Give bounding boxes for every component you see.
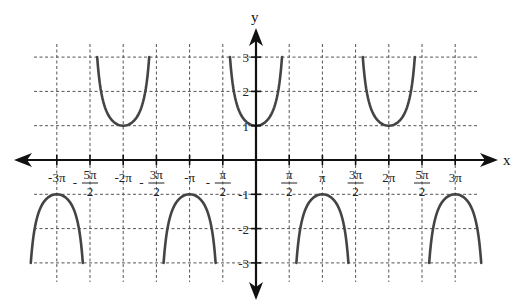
svg-text:2: 2 — [153, 184, 160, 199]
svg-text:-: - — [73, 175, 77, 190]
axes: x y — [14, 9, 511, 300]
y-tick-label: -3 — [238, 256, 249, 271]
svg-text:π: π — [220, 167, 227, 182]
svg-text:2: 2 — [87, 184, 94, 199]
y-tick-label: 2 — [243, 84, 250, 99]
secant-graph: x y -3π5π2--2π3π2--ππ2-π2π3π22π5π23π321-… — [0, 0, 521, 308]
y-tick-label: -2 — [238, 222, 249, 237]
svg-text:3π: 3π — [150, 167, 164, 182]
x-tick-label: 2π — [382, 170, 396, 185]
x-axis-label: x — [503, 152, 511, 168]
y-tick-label: 3 — [243, 50, 250, 65]
x-tick-label: π — [319, 170, 326, 185]
y-tick-label: -1 — [238, 187, 249, 202]
y-tick-label: 1 — [243, 119, 250, 134]
svg-text:3π: 3π — [349, 167, 363, 182]
svg-text:π: π — [286, 167, 293, 182]
x-tick-label: -π — [184, 170, 195, 185]
svg-text:-: - — [139, 175, 143, 190]
x-tick-label: 3π — [449, 170, 463, 185]
x-tick-label: -3π — [48, 170, 66, 185]
svg-text:2: 2 — [352, 184, 359, 199]
x-tick-label: -2π — [114, 170, 132, 185]
svg-text:2: 2 — [419, 184, 426, 199]
svg-text:5π: 5π — [83, 167, 97, 182]
svg-text:2: 2 — [286, 184, 293, 199]
y-axis-label: y — [251, 9, 259, 25]
svg-text:2: 2 — [220, 184, 227, 199]
svg-text:5π: 5π — [415, 167, 429, 182]
svg-text:-: - — [206, 175, 210, 190]
